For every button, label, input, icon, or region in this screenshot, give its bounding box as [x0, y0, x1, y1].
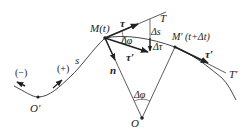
positive-direction-label: (+) — [57, 63, 69, 75]
tau-prime-label: τ′ — [126, 51, 134, 63]
negative-direction-label: (−) — [15, 67, 27, 79]
delta-phi-top-label: Δφ — [120, 35, 133, 46]
delta-phi-bottom-label: Δφ — [133, 89, 146, 100]
tangent-T-label: T — [160, 12, 167, 24]
center-O-label: O — [131, 117, 139, 129]
negative-direction-arrow — [17, 82, 25, 86]
delta-s-label: Δs — [150, 26, 161, 37]
origin-prime-label: O′ — [30, 102, 41, 114]
point-M-prime-label: M′ (t+Δt) — [171, 31, 211, 43]
tau-label: τ — [120, 17, 126, 29]
radius-M-prime-to-O — [142, 47, 175, 118]
delta-tau-label: Δτ — [152, 41, 163, 52]
point-M-label: M(t) — [89, 22, 110, 35]
positive-direction-arrow — [53, 80, 62, 88]
tangent-T-prime-label: T′ — [229, 68, 238, 80]
normal-n-label: n — [110, 64, 116, 76]
tau-prime-at-M-prime-label: τ′ — [205, 48, 213, 60]
center-O-point — [140, 116, 144, 120]
tau-prime-vector-at-M-prime — [175, 47, 208, 63]
arc-length-label: s — [75, 54, 79, 66]
diagram-canvas: O′ (−) (+) s M(t) T τ Δτ τ′ Δs Δφ n M′ (… — [0, 0, 250, 132]
origin-prime-point — [36, 95, 39, 98]
